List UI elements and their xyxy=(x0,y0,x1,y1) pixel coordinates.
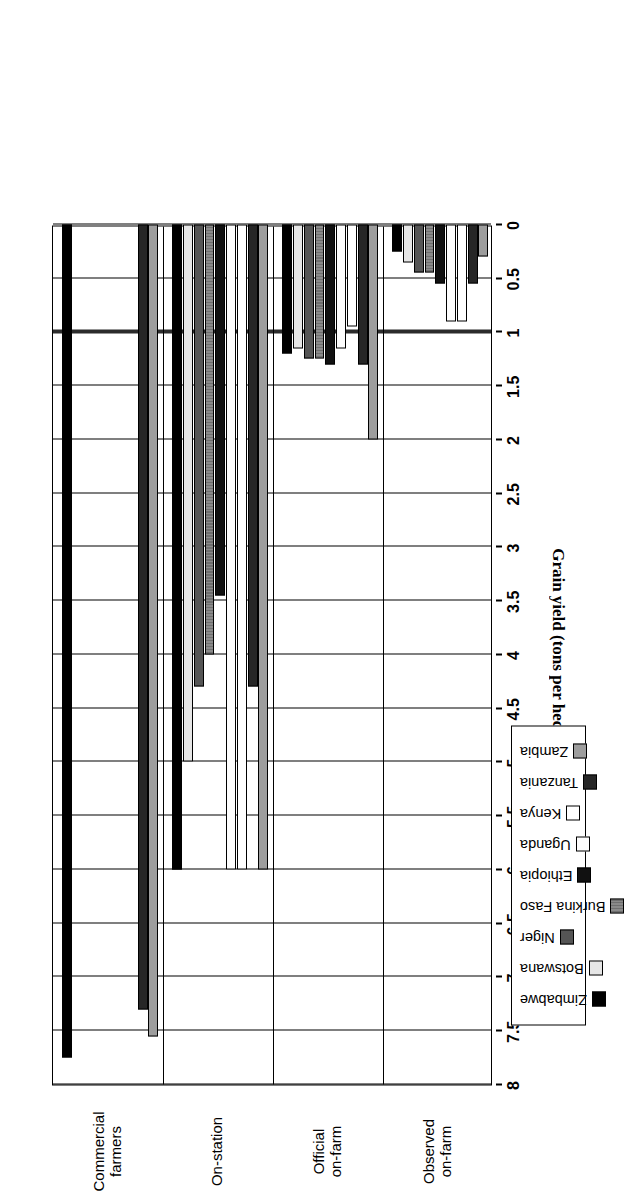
value-tick-label: 4 xyxy=(505,651,523,660)
bar-burkina-0 xyxy=(425,224,435,272)
value-tick xyxy=(496,1029,502,1031)
value-tick xyxy=(496,223,502,225)
value-tick xyxy=(496,653,502,655)
bar-botswana-1 xyxy=(293,224,303,348)
bar-uganda-0 xyxy=(446,224,456,321)
bar-zimbabwe-0 xyxy=(392,224,402,251)
category-label-line: Commercial xyxy=(90,1099,107,1193)
bar-niger-1 xyxy=(304,224,314,358)
category-label-line: Official xyxy=(310,1099,327,1193)
bar-zambia-0 xyxy=(478,224,488,256)
category-label-1: Officialon-farm xyxy=(310,1099,345,1193)
bar-tanzania-1 xyxy=(358,224,368,364)
bar-uganda-1 xyxy=(336,224,346,348)
bar-zambia-3 xyxy=(148,224,158,1036)
legend-swatch-kenya xyxy=(566,806,580,821)
bar-zambia-2 xyxy=(258,224,268,869)
category-label-2: On-station xyxy=(208,1099,225,1193)
bar-kenya-1 xyxy=(347,224,357,326)
bar-burkina-1 xyxy=(315,224,325,358)
bar-series-container xyxy=(53,226,491,1084)
value-tick xyxy=(496,277,502,279)
group-separator xyxy=(273,226,274,1084)
value-tick-label: 1 xyxy=(505,328,523,337)
legend-item-zambia[interactable]: Zambia xyxy=(520,736,587,766)
legend-item-ethiopia[interactable]: Ethiopia xyxy=(520,860,591,890)
value-tick-label: 0 xyxy=(505,221,523,230)
bar-zimbabwe-2 xyxy=(172,224,182,869)
bar-niger-0 xyxy=(414,224,424,272)
legend-item-tanzania[interactable]: Tanzania xyxy=(520,767,597,797)
bar-kenya-2 xyxy=(237,224,247,869)
value-tick xyxy=(496,868,502,870)
bar-tanzania-0 xyxy=(468,224,478,283)
value-tick-label: 3.5 xyxy=(505,590,523,612)
legend-item-niger[interactable]: Niger xyxy=(520,922,574,952)
category-label-0: Observedon-farm xyxy=(420,1099,455,1193)
legend-label: Botswana xyxy=(520,960,584,976)
category-label-line: on-farm xyxy=(327,1099,344,1193)
legend-label: Uganda xyxy=(520,836,571,852)
legend-swatch-niger xyxy=(560,930,574,945)
value-tick xyxy=(496,384,502,386)
bar-zimbabwe-3 xyxy=(62,224,72,1057)
legend-item-botswana[interactable]: Botswana xyxy=(520,953,603,983)
value-tick xyxy=(496,492,502,494)
legend-swatch-tanzania xyxy=(583,775,597,790)
bar-ethiopia-2 xyxy=(215,224,225,595)
bar-zimbabwe-1 xyxy=(282,224,292,353)
legend-item-kenya[interactable]: Kenya xyxy=(520,798,580,828)
legend-label: Zimbabwe xyxy=(520,991,587,1007)
category-label-line: Observed xyxy=(420,1099,437,1193)
legend-swatch-burkina xyxy=(610,899,624,914)
value-tick-label: 1.5 xyxy=(505,375,523,397)
legend-label: Tanzania xyxy=(520,774,578,790)
value-tick-label: 0.5 xyxy=(505,268,523,290)
bar-uganda-2 xyxy=(226,224,236,869)
legend-swatch-zimbabwe xyxy=(592,992,606,1007)
value-tick xyxy=(496,546,502,548)
value-tick-label: 2.5 xyxy=(505,483,523,505)
legend-label: Niger xyxy=(520,929,555,945)
legend-label: Ethiopia xyxy=(520,867,572,883)
bar-ethiopia-0 xyxy=(435,224,445,283)
legend-label: Kenya xyxy=(520,805,561,821)
legend-swatch-zambia xyxy=(573,744,587,759)
value-tick xyxy=(496,438,502,440)
value-tick-label: 8 xyxy=(505,1081,523,1090)
legend-item-burkina[interactable]: Burkina Faso xyxy=(520,891,624,921)
value-tick xyxy=(496,707,502,709)
value-tick xyxy=(496,814,502,816)
plot-frame xyxy=(52,225,492,1085)
legend-item-zimbabwe[interactable]: Zimbabwe xyxy=(520,984,606,1014)
legend-label: Burkina Faso xyxy=(520,898,605,914)
value-tick xyxy=(496,922,502,924)
value-tick xyxy=(496,976,502,978)
bar-niger-2 xyxy=(194,224,204,686)
category-label-line: farmers xyxy=(107,1099,124,1193)
value-tick-label: 4.5 xyxy=(505,698,523,720)
group-separator xyxy=(163,226,164,1084)
value-tick-label: 3 xyxy=(505,543,523,552)
value-tick-label: 2 xyxy=(505,436,523,445)
legend-label: Zambia xyxy=(520,743,568,759)
category-label-3: Commercialfarmers xyxy=(90,1099,125,1193)
category-axis: Observedon-farmOfficialon-farmOn-station… xyxy=(52,1089,492,1193)
legend-item-uganda[interactable]: Uganda xyxy=(520,829,590,859)
bar-kenya-0 xyxy=(457,224,467,321)
bar-botswana-2 xyxy=(183,224,193,762)
value-tick xyxy=(496,599,502,601)
value-tick xyxy=(496,331,502,333)
bar-tanzania-3 xyxy=(138,224,148,1009)
bar-burkina-2 xyxy=(205,224,215,654)
bar-botswana-0 xyxy=(403,224,413,262)
legend: ZambiaTanzaniaKenyaUgandaEthiopiaBurkina… xyxy=(511,725,586,1025)
bar-tanzania-2 xyxy=(248,224,258,686)
value-tick xyxy=(496,761,502,763)
bar-ethiopia-1 xyxy=(325,224,335,364)
group-separator xyxy=(383,226,384,1084)
category-label-line: on-farm xyxy=(437,1099,454,1193)
plot-area xyxy=(52,225,492,1085)
bar-zambia-1 xyxy=(368,224,378,439)
